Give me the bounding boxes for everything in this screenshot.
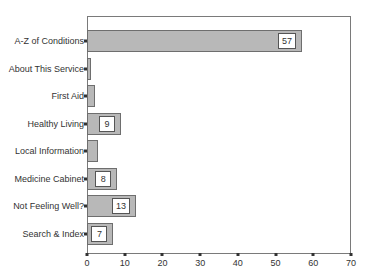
bar bbox=[87, 140, 98, 162]
bar: 9 bbox=[87, 113, 121, 135]
bar: 57 bbox=[87, 30, 302, 52]
category-label: Local Information bbox=[15, 146, 84, 156]
x-axis-tick bbox=[236, 253, 239, 256]
category-label: A-Z of Conditions bbox=[14, 36, 84, 46]
x-axis-tick-label: 40 bbox=[233, 258, 243, 268]
bar-chart: A-Z of Conditions57About This ServiceFir… bbox=[0, 0, 372, 280]
category-label: First Aid bbox=[51, 91, 84, 101]
x-axis-tick-label: 10 bbox=[120, 258, 130, 268]
bar bbox=[87, 85, 95, 107]
x-axis-tick-label: 50 bbox=[271, 258, 281, 268]
x-axis-tick-label: 60 bbox=[308, 258, 318, 268]
x-axis-tick-label: 70 bbox=[346, 258, 356, 268]
bar-value-label: 57 bbox=[278, 33, 296, 49]
x-axis-tick bbox=[199, 253, 202, 256]
x-axis-tick bbox=[161, 253, 164, 256]
x-axis-tick bbox=[312, 253, 315, 256]
category-label: Medicine Cabinet bbox=[14, 174, 84, 184]
bar: 7 bbox=[87, 223, 113, 245]
category-label: Not Feeling Well? bbox=[13, 201, 84, 211]
bar-value-label: 7 bbox=[91, 226, 107, 242]
x-axis-tick-label: 30 bbox=[195, 258, 205, 268]
bar: 8 bbox=[87, 168, 117, 190]
x-axis-tick-label: 0 bbox=[84, 258, 89, 268]
x-axis-tick bbox=[350, 253, 353, 256]
bar: 13 bbox=[87, 195, 136, 217]
x-axis-tick bbox=[123, 253, 126, 256]
bar-value-label: 9 bbox=[99, 116, 115, 132]
x-axis-tick bbox=[86, 253, 89, 256]
bar bbox=[87, 58, 91, 80]
category-label: Search & Index bbox=[22, 229, 84, 239]
x-axis-tick-label: 20 bbox=[157, 258, 167, 268]
bar-value-label: 13 bbox=[112, 198, 130, 214]
category-label: Healthy Living bbox=[27, 119, 84, 129]
x-axis-tick bbox=[274, 253, 277, 256]
category-label: About This Service bbox=[9, 64, 84, 74]
bar-value-label: 8 bbox=[95, 171, 111, 187]
